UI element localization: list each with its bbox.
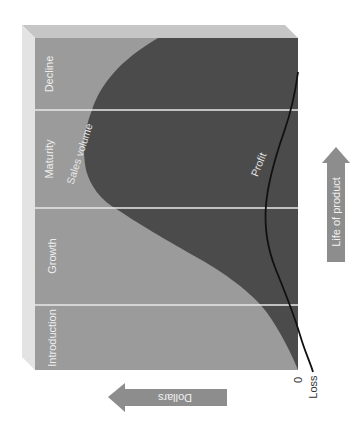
life-of-product-arrow: Life of product [322,147,350,262]
stage-label-introduction: Introduction [46,309,58,366]
loss-label: Loss [307,375,319,399]
box-left-bevel [22,25,35,370]
life-of-product-label: Life of product [330,177,342,247]
stage-label-growth: Growth [46,238,58,273]
stage-label-maturity: Maturity [43,139,55,179]
product-life-cycle-diagram: Decline Maturity Growth Introduction Sal… [0,0,363,434]
dollars-arrow: Dollars [108,383,227,412]
zero-label: 0 [292,377,304,383]
dollars-label: Dollars [157,392,192,404]
box-top-bevel [22,25,298,38]
stage-label-decline: Decline [43,56,55,93]
